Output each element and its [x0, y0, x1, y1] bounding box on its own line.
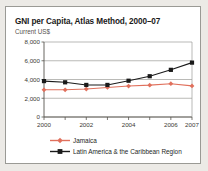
y-axis-tick-labels: 02,0004,0006,0008,000: [25, 38, 41, 120]
x-tick-label: 2000: [37, 121, 51, 128]
data-series-group: [42, 61, 195, 93]
x-tick-label: 2007: [185, 121, 199, 128]
data-point-marker: [168, 81, 173, 86]
y-tick-label: 2,000: [25, 95, 41, 102]
x-tick-label: 2004: [122, 121, 136, 128]
data-point-marker: [42, 87, 47, 92]
legend-item-latin-america: Latin America & the Caribbean Region: [50, 146, 200, 157]
x-tick-label: 2006: [164, 121, 178, 128]
data-point-marker: [169, 68, 173, 72]
plot-area: 02,0004,0006,0008,000 200020022004200620…: [6, 37, 200, 129]
legend-label-jamaica: Jamaica: [73, 136, 97, 145]
y-tick-label: 8,000: [25, 38, 41, 45]
legend-marker-square-icon: [50, 147, 70, 156]
x-axis-tick-labels: 20002002200420062007: [37, 121, 199, 128]
data-point-marker: [84, 87, 89, 92]
legend-label-latin-america: Latin America & the Caribbean Region: [73, 147, 182, 156]
y-tick-label: 0: [37, 113, 41, 120]
chart-legend: Jamaica Latin America & the Caribbean Re…: [50, 135, 200, 157]
line-chart-svg: 02,0004,0006,0008,000 200020022004200620…: [6, 37, 200, 129]
data-point-marker: [190, 61, 194, 65]
data-point-marker: [126, 79, 130, 83]
chart-subtitle: Current US$: [15, 28, 50, 35]
data-point-marker: [126, 84, 131, 89]
y-tick-label: 4,000: [25, 76, 41, 83]
y-tick-label: 6,000: [25, 57, 41, 64]
data-point-marker: [148, 74, 152, 78]
data-point-marker: [147, 83, 152, 88]
data-point-marker: [42, 79, 46, 83]
chart-title: GNI per Capita, Atlas Method, 2000–07: [15, 17, 160, 26]
legend-marker-diamond-icon: [50, 136, 70, 145]
data-point-marker: [84, 83, 88, 87]
x-tick-label: 2002: [79, 121, 93, 128]
legend-item-jamaica: Jamaica: [50, 135, 200, 146]
chart-figure: GNI per Capita, Atlas Method, 2000–07 Cu…: [0, 0, 208, 171]
data-point-marker: [105, 83, 109, 87]
data-point-marker: [190, 83, 195, 88]
gridlines: [42, 42, 193, 117]
chart-panel: GNI per Capita, Atlas Method, 2000–07 Cu…: [5, 6, 201, 164]
data-point-marker: [63, 80, 67, 84]
data-point-marker: [63, 87, 68, 92]
